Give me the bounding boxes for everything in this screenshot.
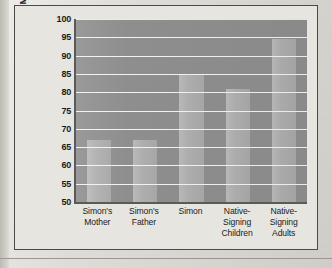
- page-edge-strip: [0, 0, 9, 268]
- x-label-0-line-1: Mother: [74, 217, 121, 228]
- x-axis-line: [74, 202, 307, 204]
- bar-4: [272, 39, 296, 202]
- x-label-1-line-1: Father: [121, 217, 168, 228]
- x-axis-category-labels: Simon'sMotherSimon'sFatherSimonNative-Si…: [74, 206, 307, 248]
- gridline-80: [76, 92, 307, 93]
- x-label-3-line-0: Native-: [214, 206, 261, 217]
- gridline-55: [76, 184, 307, 185]
- plot-area: [74, 19, 307, 202]
- gridline-65: [76, 147, 307, 148]
- y-tick-label-75: 75: [45, 107, 71, 116]
- x-label-0-line-0: Simon's: [74, 206, 121, 217]
- x-label-2-line-0: Simon: [167, 206, 214, 217]
- chart-figure: Mean Percentage Correct on "To Move" Gra…: [14, 5, 318, 250]
- y-tick-label-90: 90: [45, 52, 71, 61]
- y-tick-label-70: 70: [45, 125, 71, 134]
- x-label-3: Native-SigningChildren: [214, 206, 261, 248]
- x-label-2: Simon: [167, 206, 214, 248]
- x-label-4-line-0: Native-: [260, 206, 307, 217]
- gridline-60: [76, 165, 307, 166]
- y-tick-label-50: 50: [45, 198, 71, 207]
- scanned-page: Mean Percentage Correct on "To Move" Gra…: [0, 0, 332, 268]
- bar-chart: Mean Percentage Correct on "To Move" Gra…: [15, 6, 317, 249]
- gridline-95: [76, 37, 307, 38]
- y-tick-label-65: 65: [45, 143, 71, 152]
- gridline-90: [76, 56, 307, 57]
- y-axis-title: Mean Percentage Correct on "To Move" Gra…: [16, 0, 42, 38]
- x-label-3-line-1: Signing: [214, 217, 261, 228]
- x-label-0: Simon'sMother: [74, 206, 121, 248]
- x-label-4: Native-SigningAdults: [260, 206, 307, 248]
- x-label-4-line-2: Adults: [260, 228, 307, 239]
- bar-0: [87, 140, 111, 202]
- x-label-1: Simon'sFather: [121, 206, 168, 248]
- y-axis-title-line-1: Mean Percentage Correct on: [18, 0, 29, 4]
- gridline-70: [76, 129, 307, 130]
- bar-2: [179, 74, 203, 202]
- y-tick-label-60: 60: [45, 161, 71, 170]
- y-tick-label-85: 85: [45, 70, 71, 79]
- gridline-85: [76, 74, 307, 75]
- x-label-1-line-0: Simon's: [121, 206, 168, 217]
- y-tick-label-95: 95: [45, 33, 71, 42]
- y-tick-label-80: 80: [45, 88, 71, 97]
- gridline-100: [76, 19, 307, 20]
- y-tick-label-100: 100: [45, 15, 71, 24]
- x-label-4-line-1: Signing: [260, 217, 307, 228]
- x-label-3-line-2: Children: [214, 228, 261, 239]
- y-axis-tick-labels: 50556065707580859095100: [45, 19, 71, 202]
- y-tick-label-55: 55: [45, 180, 71, 189]
- bar-1: [133, 140, 157, 202]
- gridline-75: [76, 111, 307, 112]
- page-bottom-rule: [0, 258, 332, 259]
